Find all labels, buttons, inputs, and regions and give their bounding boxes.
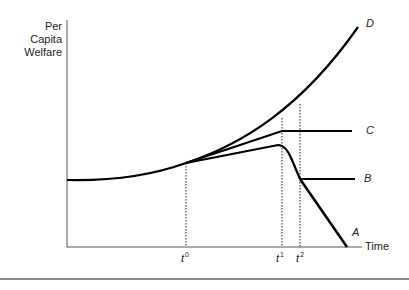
tick-base: t — [181, 252, 184, 264]
series-a-label: A — [352, 226, 359, 238]
y-axis-label: Per Capita Welfare — [24, 20, 62, 59]
tick-t0: t0 — [181, 251, 189, 264]
x-axis-label: Time — [365, 240, 389, 252]
tick-base: t — [276, 252, 279, 264]
tick-sup: 2 — [300, 251, 304, 258]
tick-base: t — [296, 252, 299, 264]
bottom-divider — [0, 278, 409, 280]
baseline-curve — [67, 163, 186, 180]
series-b-label: B — [364, 172, 371, 184]
tick-sup: 1 — [280, 251, 284, 258]
tick-t1: t1 — [276, 251, 284, 264]
y-label-line: Capita — [24, 33, 62, 46]
tick-sup: 0 — [185, 251, 189, 258]
series-c-label: C — [366, 124, 374, 136]
y-label-line: Per — [24, 20, 62, 33]
tick-t2: t2 — [296, 251, 304, 264]
series-d-line — [186, 27, 358, 163]
series-a-line — [300, 179, 347, 247]
series-ab-decline — [186, 145, 300, 179]
y-label-line: Welfare — [24, 46, 62, 59]
series-d-label: D — [366, 17, 374, 29]
